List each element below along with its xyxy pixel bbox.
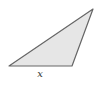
triangle-figure: x — [0, 0, 96, 88]
triangle — [9, 9, 93, 66]
base-label: x — [37, 68, 43, 79]
diagram-canvas: x — [0, 0, 96, 88]
